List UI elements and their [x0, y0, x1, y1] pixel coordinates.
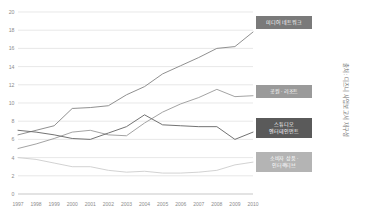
series-label-consumer-products[interactable]: 소비자 상품 · 인터랙티브: [256, 152, 312, 172]
y-axis-tick-label: 20: [9, 9, 15, 15]
series-label-parks-resorts[interactable]: 공원 · 리조트: [256, 85, 312, 98]
x-axis-tick-label: 1998: [31, 201, 42, 207]
chart-canvas: 0246810121416182019971998199920002001200…: [0, 0, 369, 219]
x-axis-tick-label: 2004: [139, 201, 150, 207]
series-label-studio-entertainment[interactable]: 스튜디오 엔터테인먼트: [256, 118, 312, 138]
y-axis-tick-label: 12: [9, 82, 15, 88]
y-axis-tick-label: 4: [12, 155, 15, 161]
x-axis-tick-label: 1999: [49, 201, 60, 207]
y-axis-tick-label: 10: [9, 100, 15, 106]
y-axis-tick-label: 18: [9, 27, 15, 33]
x-axis-tick-label: 2000: [67, 201, 78, 207]
x-axis-tick-label: 2007: [193, 201, 204, 207]
y-axis-tick-label: 0: [12, 191, 15, 197]
y-axis-tick-label: 8: [12, 118, 15, 124]
series-line: [18, 115, 253, 140]
chart-page: 0246810121416182019971998199920002001200…: [0, 0, 369, 219]
x-axis-tick-label: 2002: [103, 201, 114, 207]
series-line: [18, 158, 253, 173]
series-line: [18, 32, 253, 135]
x-axis-tick-label: 2006: [175, 201, 186, 207]
x-axis-tick-label: 2003: [121, 201, 132, 207]
y-axis-tick-label: 14: [9, 64, 15, 70]
y-axis-tick-label: 2: [12, 173, 15, 179]
x-axis-tick-label: 2008: [211, 201, 222, 207]
line-chart: 0246810121416182019971998199920002001200…: [0, 0, 369, 219]
x-axis-tick-label: 2010: [247, 201, 258, 207]
series-label-text: 소비자 상품 · 인터랙티브: [270, 155, 299, 168]
x-axis-tick-label: 2009: [229, 201, 240, 207]
y-axis-tick-label: 6: [12, 136, 15, 142]
y-axis-tick-label: 16: [9, 45, 15, 51]
source-note: 출처: 디즈니 사업보고서 재구성: [342, 63, 350, 137]
x-axis-tick-label: 2001: [85, 201, 96, 207]
series-label-text: 스튜디오 엔터테인먼트: [269, 121, 298, 134]
x-axis-tick-label: 2005: [157, 201, 168, 207]
series-label-media-networks[interactable]: 미디어 네트워크: [256, 16, 312, 29]
series-label-text: 미디어 네트워크: [266, 19, 302, 26]
x-axis-tick-label: 1997: [12, 201, 23, 207]
series-label-text: 공원 · 리조트: [270, 88, 299, 95]
